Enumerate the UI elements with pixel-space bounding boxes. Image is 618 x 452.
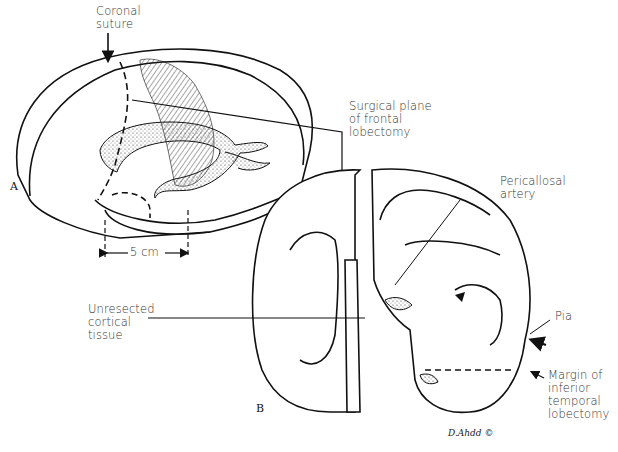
panel-b-section (253, 169, 530, 412)
illustration (0, 0, 618, 452)
figure-canvas: Coronal suture A 5 cm Surgical plane of … (0, 0, 618, 452)
label-pericallosal-artery: Pericallosal artery (500, 175, 566, 201)
pia-arrow (532, 340, 546, 345)
pia-leader (530, 320, 550, 334)
panel-label-b: B (256, 402, 264, 415)
label-margin-inferior-temporal: Margin of inferior temporal lobectomy (548, 369, 609, 421)
label-unresected-tissue: Unresected cortical tissue (88, 303, 155, 342)
label-5cm: 5 cm (130, 246, 159, 259)
panel-label-a: A (10, 180, 18, 193)
label-coronal-suture: Coronal suture (96, 5, 141, 31)
margin-arrow (532, 372, 544, 378)
panel-a-brain (17, 49, 313, 238)
artist-signature: D.Ahdd © (448, 428, 493, 438)
label-pia: Pia (555, 310, 572, 323)
label-surgical-plane: Surgical plane of frontal lobectomy (349, 100, 432, 139)
